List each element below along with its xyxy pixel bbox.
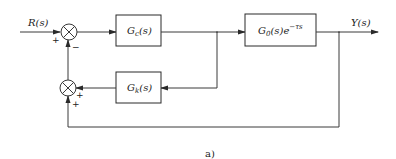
block-diagram: R(s) + − Gc(s) G0(s)e−τs Y(s) Gk(s) + + <box>0 0 396 159</box>
g0-block: G0(s)e−τs <box>245 14 316 46</box>
inner-feedback-line <box>161 32 217 88</box>
gc-label-main: G <box>127 25 135 36</box>
sum2-plus-sign-bottom: + <box>72 99 80 109</box>
gk-label-tail: (s) <box>139 82 152 93</box>
summing-junction-1 <box>61 24 77 40</box>
sum1-minus-sign: − <box>72 42 80 52</box>
output-label: Y(s) <box>351 17 371 28</box>
g0-label-tail: (s)e <box>270 25 289 36</box>
gc-label-tail: (s) <box>139 25 152 36</box>
g0-label-main: G <box>258 25 266 36</box>
g0-label-sup: −τs <box>289 23 303 31</box>
gk-label-main: G <box>127 82 135 93</box>
sum1-plus-sign: + <box>52 35 60 45</box>
gk-block: Gk(s) <box>116 72 161 103</box>
gc-block: Gc(s) <box>116 15 161 46</box>
inner-tap-node <box>216 31 218 33</box>
figure-caption: a) <box>205 148 215 159</box>
input-label: R(s) <box>27 17 49 28</box>
output-tap-node <box>338 31 340 33</box>
summing-junction-2 <box>60 80 76 96</box>
